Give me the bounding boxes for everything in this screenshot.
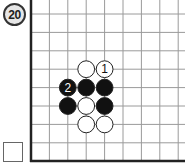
- white-stone: [78, 116, 95, 133]
- white-stone: 1: [96, 61, 113, 78]
- black-stone: [96, 98, 113, 115]
- black-stone: [78, 79, 95, 96]
- white-stone: [96, 116, 113, 133]
- white-stone: [78, 61, 95, 78]
- move-number-label: 2: [64, 81, 71, 95]
- black-stone: 2: [59, 79, 76, 96]
- black-stone: [96, 79, 113, 96]
- black-stone: [59, 98, 76, 115]
- move-number-label: 1: [101, 62, 108, 76]
- answer-checkbox[interactable]: [3, 142, 23, 162]
- white-stone: [78, 98, 95, 115]
- go-board: 12: [0, 0, 185, 163]
